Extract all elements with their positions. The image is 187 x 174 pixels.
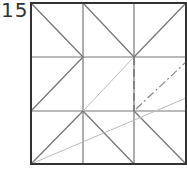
mountain-fold-line <box>134 111 186 164</box>
light-fold-line <box>83 57 134 111</box>
mountain-fold-line <box>31 111 83 164</box>
mountain-fold-line <box>83 111 134 164</box>
mountain-fold-line <box>83 3 134 57</box>
light-fold-line <box>31 98 186 164</box>
mountain-fold-line <box>31 3 83 57</box>
dashdot-fold-line <box>136 62 186 109</box>
mountain-fold-line <box>134 3 186 57</box>
crease-pattern-diagram <box>0 0 187 174</box>
mountain-fold-line <box>31 57 83 111</box>
crease-lines <box>31 3 186 164</box>
